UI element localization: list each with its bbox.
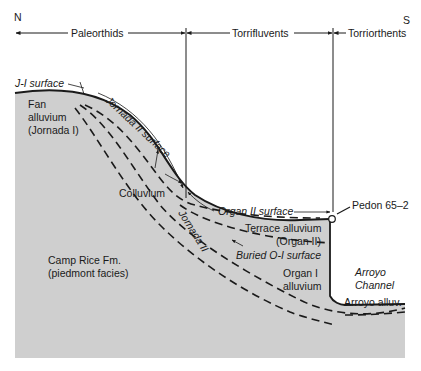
zone-label-paleorthids: Paleorthids (71, 27, 124, 40)
zone-label-torrifluvents: Torrifluvents (232, 27, 289, 40)
compass-north: N (14, 11, 22, 24)
terrace-alluvium-label-1: Terrace alluvium (245, 222, 321, 235)
arroyo-alluvium-label: Arroyo alluv. (344, 296, 402, 309)
arroyo-channel-wall (330, 219, 405, 305)
pedon-leader (337, 207, 350, 214)
buried-o1-surface-label: Buried O-I surface (236, 249, 321, 262)
pedon-marker (329, 216, 336, 223)
geomorphic-cross-section: Jornada II surface Jornada II (0, 0, 421, 371)
camp-rice-label-1: Camp Rice Fm. (48, 254, 121, 267)
camp-rice-label-2: (piedmont facies) (48, 267, 129, 280)
terrace-alluvium-label-2: (Organ II) (276, 235, 321, 248)
zone-label-torriorthents: Torriorthents (348, 27, 406, 40)
organ1-alluvium-label-2: alluvium (283, 280, 322, 293)
pedon-label: Pedon 65–2 (352, 199, 409, 212)
fan-alluvium-label-1: Fan (28, 98, 46, 111)
j1-surface-label: J-I surface (15, 77, 64, 90)
compass-south: S (403, 14, 410, 27)
fan-alluvium-label-2: alluvium (28, 111, 67, 124)
colluvium-label: Colluvium (119, 187, 165, 200)
organ2-surface-label: Organ II surface (218, 205, 293, 218)
organ1-alluvium-label-1: Organ I (283, 267, 318, 280)
arroyo-channel-label-1: Arroyo (355, 266, 386, 279)
arroyo-channel-label-2: Channel (355, 279, 394, 292)
fan-alluvium-label-3: (Jornada I) (28, 124, 79, 137)
